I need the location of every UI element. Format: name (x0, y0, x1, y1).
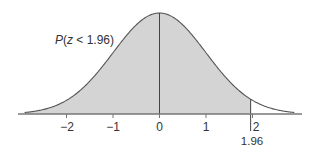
annotation-rest: < 1.96) (73, 33, 114, 47)
shaded-area (25, 13, 251, 114)
probability-annotation: P(z < 1.96) (55, 33, 114, 47)
tick-label-0: 0 (156, 120, 163, 134)
tick-label-1: 1 (203, 120, 210, 134)
marker-label-1-96: 1.96 (241, 135, 263, 147)
tick-label-minus1: −1 (106, 120, 120, 134)
annotation-p: P (55, 33, 63, 47)
tick-label-minus2: −2 (60, 120, 74, 134)
tick-label-2: 2 (253, 120, 260, 134)
normal-distribution-chart: −2 −1 0 1 2 1.96 P(z < 1.96) (0, 0, 315, 151)
annotation-z: z (66, 33, 73, 47)
